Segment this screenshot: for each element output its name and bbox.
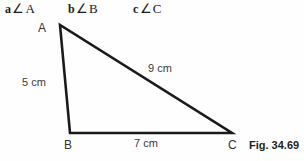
- vertex-label-c: C: [228, 138, 237, 152]
- figure-caption: Fig. 34.69: [249, 139, 299, 151]
- side-length-label-ac: 9 cm: [148, 62, 172, 74]
- triangle-outline: [60, 25, 232, 133]
- vertex-label-a: A: [38, 21, 46, 35]
- figure-page: a∠A b∠B c∠C A B C 5 cm 9 cm 7 cm Fig. 34…: [0, 0, 304, 161]
- side-length-label-bc: 7 cm: [134, 137, 158, 149]
- vertex-label-b: B: [64, 138, 72, 152]
- side-length-label-ab: 5 cm: [22, 76, 46, 88]
